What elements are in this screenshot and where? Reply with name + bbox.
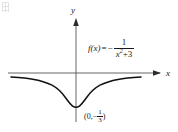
- y-axis-label: y: [71, 6, 75, 15]
- equation-denominator: x2+3: [114, 49, 135, 59]
- y-axis-arrowhead: [73, 18, 79, 26]
- denominator-constant: 3: [128, 49, 133, 59]
- equation-numerator: 1: [120, 38, 129, 48]
- equation-equals-sign: =: [102, 44, 107, 53]
- function-equation: f(x) = − 1 x2+3: [88, 38, 134, 59]
- point-close-paren: ): [103, 113, 106, 121]
- minimum-point-label: ( 0 , − 1 3 ): [84, 109, 105, 124]
- equation-fraction: 1 x2+3: [114, 38, 135, 59]
- function-graph-figure: y x f(x) = − 1 x2+3 ( 0 , − 1 3 ): [0, 0, 178, 132]
- x-axis-label: x: [166, 69, 170, 78]
- equation-lhs: f(x): [88, 44, 101, 53]
- equation-negative-sign: −: [108, 44, 113, 53]
- x-axis-arrowhead: [153, 70, 161, 76]
